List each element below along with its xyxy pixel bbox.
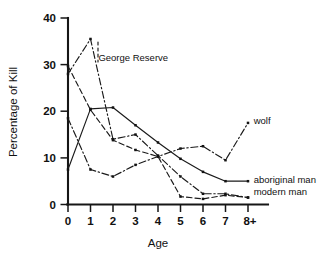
data-point-marker (179, 195, 182, 198)
x-tick-labels: 0 1 2 3 4 5 6 7 8+ (65, 215, 257, 227)
data-point-marker (202, 198, 205, 201)
series-label-george-reserve: George Reserve (98, 52, 168, 63)
data-point-marker (112, 139, 115, 142)
y-tick-label: 30 (43, 59, 56, 71)
series-label-wolf: wolf (253, 115, 271, 126)
series-path (68, 108, 248, 182)
data-point-marker (112, 106, 115, 109)
data-point-marker (157, 155, 160, 158)
data-point-marker (67, 117, 70, 120)
x-tick-label: 4 (155, 215, 162, 227)
y-axis-title: Percentage of Kill (7, 67, 19, 157)
series-wolf (67, 117, 250, 178)
chart-container: Percentage of Kill 40 30 20 10 0 (0, 0, 336, 257)
data-point-marker (179, 175, 182, 178)
x-tick-label: 5 (177, 215, 184, 227)
x-tick-label: 3 (132, 215, 138, 227)
data-point-marker (112, 175, 115, 178)
data-point-marker (89, 38, 92, 41)
data-point-marker (134, 124, 137, 127)
y-tick-label: 10 (43, 152, 56, 164)
x-tick-label: 2 (110, 215, 116, 227)
data-point-marker (247, 196, 250, 199)
data-point-marker (67, 73, 70, 76)
x-tick-label: 7 (222, 215, 228, 227)
x-tick-label: 0 (65, 215, 71, 227)
data-point-marker (224, 180, 227, 183)
y-tick-label: 0 (50, 199, 56, 211)
data-point-marker (224, 159, 227, 162)
series-path (68, 118, 248, 176)
line-chart: Percentage of Kill 40 30 20 10 0 (0, 0, 336, 257)
data-point-marker (134, 164, 137, 167)
data-point-marker (89, 109, 92, 112)
data-point-marker (202, 145, 205, 148)
series-label-aboriginal-man: aboriginal man (254, 174, 316, 185)
axes (67, 18, 268, 205)
data-point-marker (202, 171, 205, 174)
x-axis-title: Age (148, 237, 168, 249)
data-point-marker (67, 168, 70, 171)
data-point-marker (247, 122, 250, 125)
series-path (68, 39, 248, 198)
data-point-marker (202, 193, 205, 196)
data-point-marker (224, 194, 227, 197)
x-ticks (68, 205, 248, 213)
data-point-marker (89, 168, 92, 171)
data-point-marker (247, 180, 250, 183)
data-point-marker (157, 141, 160, 144)
data-point-marker (179, 147, 182, 150)
x-tick-label: 1 (87, 215, 94, 227)
y-tick-label: 40 (43, 12, 56, 24)
data-point-marker (67, 65, 70, 68)
x-tick-label: 6 (200, 215, 206, 227)
series-annotations: George Reservewolfaboriginal manmodern m… (98, 52, 316, 198)
data-point-marker (134, 133, 137, 136)
series-label-modern-man: modern man (254, 186, 307, 197)
x-tick-label: 8+ (243, 215, 256, 227)
y-tick-label: 20 (43, 105, 56, 117)
y-ticks (61, 18, 69, 205)
data-point-marker (134, 149, 137, 152)
y-tick-labels: 40 30 20 10 0 (43, 12, 56, 211)
data-point-marker (179, 158, 182, 161)
